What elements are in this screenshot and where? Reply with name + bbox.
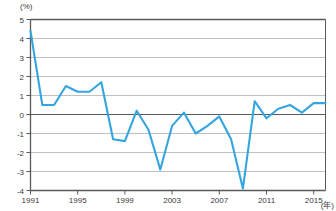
y-tick-label: 0: [10, 110, 24, 119]
y-tick-label: -4: [10, 186, 24, 195]
plot-area: [0, 0, 336, 211]
y-tick-label: 4: [10, 34, 24, 43]
x-tick-label: 1991: [16, 196, 46, 205]
x-tick-label: 2003: [157, 196, 187, 205]
y-tick-label: -3: [10, 167, 24, 176]
line-chart: (%) (年) 543210-1-2-3-4 19911995199920032…: [0, 0, 336, 211]
y-tick-label: 5: [10, 15, 24, 24]
y-tick-label: 3: [10, 53, 24, 62]
axis-frame: [31, 20, 326, 191]
x-tick-label: 2015: [299, 196, 329, 205]
y-tick-label: 2: [10, 72, 24, 81]
x-tick-label: 1999: [110, 196, 140, 205]
y-axis-unit-label: (%): [20, 2, 32, 11]
y-tick-label: 1: [10, 91, 24, 100]
x-tick-label: 1995: [63, 196, 93, 205]
x-tick-label: 2007: [204, 196, 234, 205]
y-tick-label: -1: [10, 129, 24, 138]
y-tick-label: -2: [10, 148, 24, 157]
x-tick-label: 2011: [252, 196, 282, 205]
data-series-line: [31, 31, 326, 189]
gridlines: [31, 39, 326, 172]
